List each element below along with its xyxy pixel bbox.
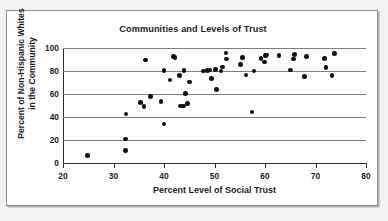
data-point: [277, 53, 282, 58]
data-point: [264, 53, 269, 58]
x-tick-20: [63, 164, 64, 168]
scatter-plot-area: [63, 48, 366, 163]
gridline-y-20: [63, 140, 366, 141]
data-point: [85, 153, 90, 158]
y-tick-label-20: 20: [33, 135, 59, 145]
y-tick-label-40: 40: [33, 112, 59, 122]
x-tick-label-30: 30: [99, 171, 129, 181]
x-tick-30: [114, 164, 115, 168]
data-point: [214, 87, 219, 92]
data-point: [219, 69, 224, 74]
y-tick-label-0: 0: [33, 158, 59, 168]
data-point: [142, 104, 147, 109]
chart-title: Communities and Levels of Trust: [7, 24, 379, 34]
gridline-y-100: [63, 48, 366, 49]
x-tick-label-40: 40: [149, 171, 179, 181]
data-point: [185, 101, 190, 106]
data-point: [250, 110, 255, 115]
gridline-y-60: [63, 94, 366, 95]
x-tick-60: [265, 164, 266, 168]
data-point: [143, 58, 148, 63]
data-point: [220, 65, 225, 70]
y-tick-label-60: 60: [33, 89, 59, 99]
data-point: [162, 68, 167, 73]
data-point: [304, 54, 309, 59]
data-point: [292, 52, 297, 57]
data-point: [159, 99, 164, 104]
data-point: [123, 137, 128, 142]
x-axis-title: Percent Level of Social Trust: [63, 185, 366, 195]
data-point: [224, 51, 229, 56]
data-point: [213, 67, 218, 72]
page-background: Communities and Levels of Trust Percent …: [0, 0, 388, 221]
data-point: [332, 51, 337, 56]
data-point: [183, 91, 188, 96]
data-point: [182, 68, 187, 73]
data-point: [330, 73, 335, 78]
data-point: [244, 73, 249, 78]
data-point: [288, 68, 293, 73]
data-point: [123, 148, 128, 153]
data-point: [148, 94, 153, 99]
data-point: [324, 65, 329, 70]
x-tick-40: [164, 164, 165, 168]
data-point: [187, 80, 192, 85]
x-tick-label-50: 50: [200, 171, 230, 181]
data-point: [177, 73, 182, 78]
x-tick-label-20: 20: [48, 171, 78, 181]
x-tick-label-80: 80: [351, 171, 381, 181]
x-tick-50: [215, 164, 216, 168]
data-point: [209, 76, 214, 81]
y-tick-label-100: 100: [33, 43, 59, 53]
x-tick-80: [366, 164, 367, 168]
chart-figure-frame: Communities and Levels of Trust Percent …: [6, 10, 378, 206]
x-tick-label-60: 60: [250, 171, 280, 181]
data-point: [240, 55, 245, 60]
x-tick-label-70: 70: [301, 171, 331, 181]
data-point: [124, 112, 129, 117]
data-point: [302, 74, 307, 79]
data-point: [162, 122, 167, 127]
gridline-y-40: [63, 117, 366, 118]
data-point: [262, 60, 267, 65]
data-point: [252, 69, 257, 74]
y-tick-label-80: 80: [33, 66, 59, 76]
data-point: [224, 57, 229, 62]
data-point: [173, 55, 178, 60]
data-point: [168, 78, 173, 83]
data-point: [291, 57, 296, 62]
data-point: [238, 62, 243, 67]
data-point: [322, 56, 327, 61]
x-tick-70: [316, 164, 317, 168]
